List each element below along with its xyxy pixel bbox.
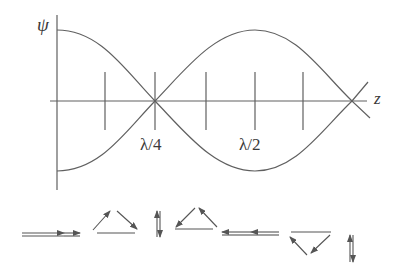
- x-axis-label: z: [374, 89, 381, 109]
- double-arrow-left-icon: [222, 232, 279, 235]
- triangle-up-icon: [93, 211, 137, 233]
- vertical-arrows-icon: [350, 235, 353, 262]
- vertical-arrows-icon: [157, 211, 160, 237]
- double-arrow-right-icon: [22, 233, 80, 236]
- y-axis-label: ψ: [37, 14, 49, 36]
- tick-label-half: λ/2: [239, 135, 260, 155]
- standing-wave-diagram: [0, 0, 399, 276]
- triangle-up-reversed-icon: [175, 208, 217, 229]
- triangle-down-icon: [290, 232, 331, 255]
- tick-label-quarter: λ/4: [140, 135, 161, 155]
